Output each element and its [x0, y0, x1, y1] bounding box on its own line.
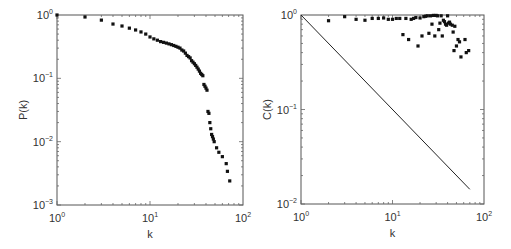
data-point — [433, 34, 436, 37]
data-point — [427, 32, 430, 35]
data-point — [452, 49, 455, 52]
data-point — [404, 17, 407, 20]
data-point — [441, 34, 444, 37]
data-point — [148, 35, 151, 38]
data-point — [215, 146, 218, 149]
data-point — [463, 38, 466, 41]
data-point — [363, 19, 366, 22]
x-axis-label: k — [147, 228, 153, 240]
x-tick-label: 100 — [293, 210, 309, 223]
data-point — [437, 28, 440, 31]
y-tick-label: 10−2 — [33, 135, 53, 148]
y-tick-label: 10−1 — [277, 103, 297, 116]
data-point — [430, 23, 433, 26]
data-point — [377, 17, 380, 20]
data-point — [440, 14, 443, 17]
y-tick-label: 10−1 — [33, 71, 53, 84]
data-point — [395, 17, 398, 20]
data-point — [189, 56, 192, 59]
data-point — [327, 19, 330, 22]
right-plot-clustering-coefficient: 10010110210−210−1100kC(k) — [261, 8, 492, 239]
data-point — [343, 15, 346, 18]
x-tick-label: 101 — [142, 211, 158, 224]
y-tick-label: 100 — [281, 8, 297, 21]
y-tick-label: 10−3 — [33, 198, 53, 211]
y-tick-label: 10−2 — [277, 197, 297, 210]
data-point — [159, 40, 162, 43]
data-point — [100, 19, 103, 22]
y-axis-label: P(k) — [17, 100, 29, 120]
y-axis-label: C(k) — [261, 99, 273, 120]
data-point — [208, 121, 211, 124]
data-point — [221, 155, 224, 158]
data-point — [152, 37, 155, 40]
data-point — [407, 38, 410, 41]
data-point — [429, 14, 432, 17]
x-tick-label: 102 — [476, 210, 492, 223]
left-plot-degree-distribution: 10010110210−310−210−1100kP(k) — [17, 8, 251, 240]
data-point — [207, 112, 210, 115]
data-point — [83, 15, 86, 18]
data-point — [225, 162, 228, 165]
y-tick-label: 100 — [37, 8, 53, 21]
x-tick-label: 102 — [235, 211, 251, 224]
data-point — [162, 41, 165, 44]
figure: 10010110210−310−210−1100kP(k) 1001011021… — [0, 0, 511, 249]
data-point — [156, 39, 159, 42]
data-point — [139, 30, 142, 33]
data-point — [205, 89, 208, 92]
data-point — [414, 16, 417, 19]
data-point — [446, 14, 449, 17]
data-point — [134, 28, 137, 31]
data-point — [387, 18, 390, 21]
data-point — [438, 22, 441, 25]
data-point — [128, 27, 131, 30]
data-point — [111, 22, 114, 25]
data-point — [436, 14, 439, 17]
data-point — [354, 18, 357, 21]
data-point — [401, 33, 404, 36]
reference-line — [301, 15, 470, 189]
data-point — [418, 16, 421, 19]
data-point — [420, 34, 423, 37]
data-point — [120, 24, 123, 27]
data-point — [453, 25, 456, 28]
data-point — [398, 17, 401, 20]
data-point — [416, 44, 419, 47]
x-tick-label: 100 — [49, 211, 65, 224]
data-point — [452, 30, 455, 33]
data-point — [455, 44, 458, 47]
data-point — [467, 49, 470, 52]
data-point — [209, 127, 212, 130]
x-tick-label: 101 — [384, 210, 400, 223]
data-point — [213, 140, 216, 143]
data-point — [144, 32, 147, 35]
data-point — [226, 170, 229, 173]
data-point — [201, 74, 204, 77]
data-point — [458, 40, 461, 43]
x-axis-label: k — [390, 227, 396, 239]
data-point — [228, 179, 231, 182]
data-point — [459, 55, 462, 58]
data-point — [426, 14, 429, 17]
data-point — [432, 14, 435, 17]
data-point — [55, 13, 58, 16]
data-point — [217, 151, 220, 154]
data-point — [371, 17, 374, 20]
data-point — [391, 18, 394, 21]
data-point — [382, 16, 385, 19]
plot-frame — [57, 15, 243, 205]
